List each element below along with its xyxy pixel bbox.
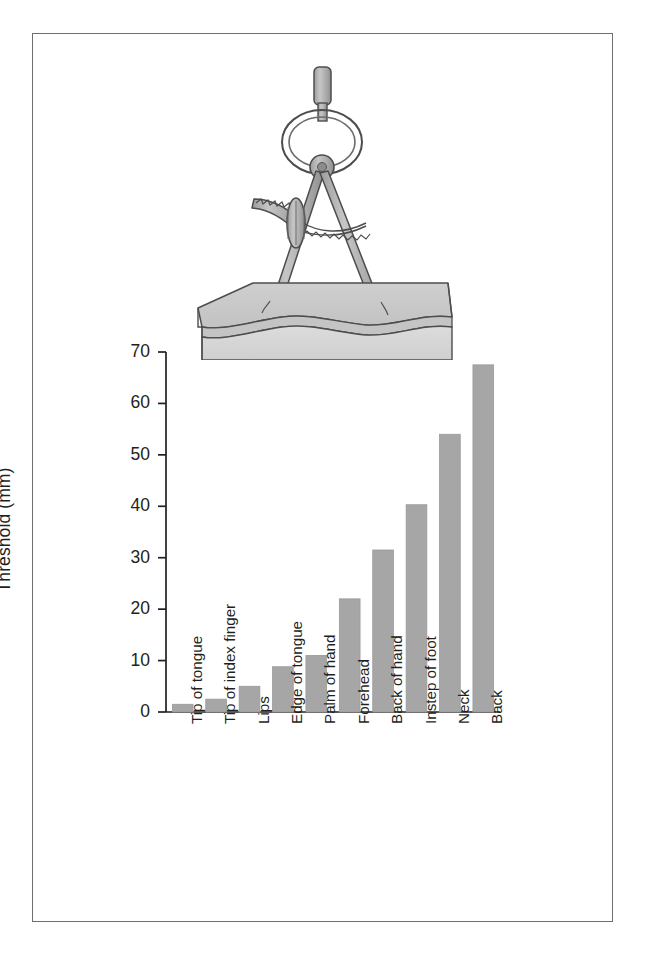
- caliper-adjustment-screw-icon: [287, 198, 305, 248]
- y-axis-title: Threshold (mm): [0, 440, 15, 620]
- two-point-discrimination-caliper-illustration: [190, 55, 460, 360]
- figure-root: Threshold (mm) 010203040506070 Tip of to…: [0, 0, 647, 955]
- caliper-handle-icon: [314, 67, 331, 121]
- skin-block-illustration: [198, 283, 452, 360]
